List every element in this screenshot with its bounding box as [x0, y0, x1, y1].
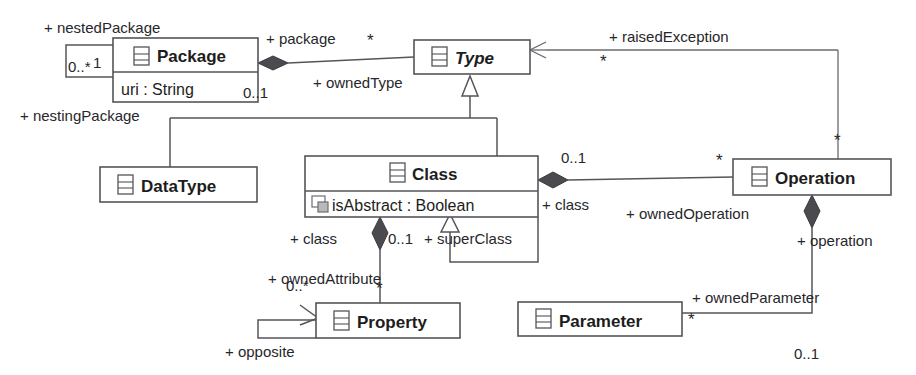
class-icon: [390, 163, 405, 182]
class-box-property[interactable]: Property: [316, 303, 460, 338]
class-box-datatype[interactable]: DataType: [100, 167, 257, 202]
multiplicity-owned-parameter-star: *: [688, 310, 695, 329]
association-raised-exception: [530, 42, 838, 159]
class-attribute-package-uri: uri : String: [121, 81, 194, 98]
class-name-property: Property: [357, 313, 427, 332]
association-owned-operation: [538, 172, 733, 188]
role-label-nesting-package: + nestingPackage: [20, 107, 140, 124]
diagram-canvas: Package uri : String Type DataType: [0, 0, 916, 375]
role-label-owned-parameter: + ownedParameter: [692, 289, 819, 306]
class-icon: [134, 47, 149, 65]
role-label-owned-attribute: + ownedAttribute: [268, 270, 381, 287]
multiplicity-nested-package-one: 1: [93, 54, 101, 71]
role-label-super-class: + superClass: [424, 230, 512, 247]
uml-class-diagram: Package uri : String Type DataType: [0, 0, 916, 375]
role-label-owned-operation: + ownedOperation: [626, 205, 749, 222]
multiplicity-operation-top-star: *: [834, 131, 841, 150]
role-label-class-right: + class: [542, 196, 589, 213]
multiplicity-super-class-one: 0..1: [388, 230, 413, 247]
role-label-owned-type: + ownedType: [313, 74, 403, 91]
class-box-operation[interactable]: Operation: [733, 159, 891, 195]
multiplicity-owned-attribute-star: *: [376, 279, 383, 298]
class-attribute-isabstract: isAbstract : Boolean: [332, 197, 474, 214]
role-label-raised-exception: + raisedException: [609, 28, 729, 45]
class-box-class[interactable]: Class isAbstract : Boolean: [305, 156, 538, 217]
class-name-parameter: Parameter: [559, 312, 643, 331]
association-opposite: [258, 305, 318, 338]
class-name-operation: Operation: [775, 169, 855, 188]
role-label-package: + package: [266, 30, 336, 47]
multiplicity-owned-attribute-zero-star: 0..*: [286, 277, 309, 294]
role-label-opposite: + opposite: [225, 343, 295, 360]
class-icon: [334, 311, 349, 330]
class-icon: [432, 47, 447, 66]
class-box-parameter[interactable]: Parameter: [518, 302, 682, 336]
role-label-nested-package: + nestedPackage: [44, 19, 160, 36]
multiplicity-nested-package-star: 0..*: [68, 58, 91, 75]
class-name-type: Type: [455, 49, 494, 68]
multiplicity-raised-exception-star: *: [600, 52, 607, 71]
class-name-class: Class: [412, 165, 457, 184]
role-label-class-bottom: + class: [290, 230, 337, 247]
role-label-operation: + operation: [797, 232, 872, 249]
class-box-package[interactable]: Package uri : String: [113, 38, 258, 102]
class-icon: [752, 167, 767, 186]
multiplicity-package-star: *: [367, 31, 374, 50]
class-name-datatype: DataType: [141, 177, 216, 196]
class-icon: [118, 175, 133, 194]
multiplicity-owned-operation-star: *: [716, 151, 723, 170]
class-name-package: Package: [157, 47, 226, 66]
multiplicity-class-owner-one: 0..1: [561, 149, 586, 166]
association-package-ownedtype: [258, 56, 414, 70]
multiplicity-operation-one: 0..1: [794, 345, 819, 362]
class-icon: [536, 309, 551, 328]
class-box-type[interactable]: Type: [414, 40, 530, 74]
multiplicity-owned-type-one: 0..1: [243, 84, 268, 101]
generalization-class-to-type: [462, 76, 478, 118]
